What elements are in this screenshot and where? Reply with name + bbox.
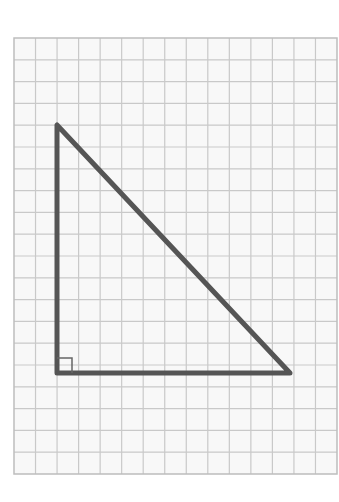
grid-paper-diagram (0, 0, 339, 502)
grid-lines (14, 38, 337, 474)
